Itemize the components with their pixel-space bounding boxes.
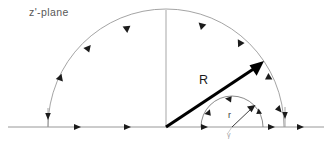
- small-semicircle-arc: [201, 96, 263, 127]
- small-radius-label: r: [228, 110, 231, 120]
- angle-label: γ: [227, 131, 231, 138]
- figure-canvas: z'-plane R r γ: [0, 0, 331, 149]
- contour-diagram-svg: [0, 0, 331, 149]
- radius-vector-r-shaft: [232, 109, 251, 127]
- large-arc-arrowheads: [56, 23, 282, 113]
- big-radius-label: R: [199, 73, 208, 87]
- radius-vector-R-arrowhead: [250, 61, 265, 76]
- left-foot-arrowhead: [45, 113, 51, 120]
- z-prime-plane-label: z'-plane: [29, 6, 69, 18]
